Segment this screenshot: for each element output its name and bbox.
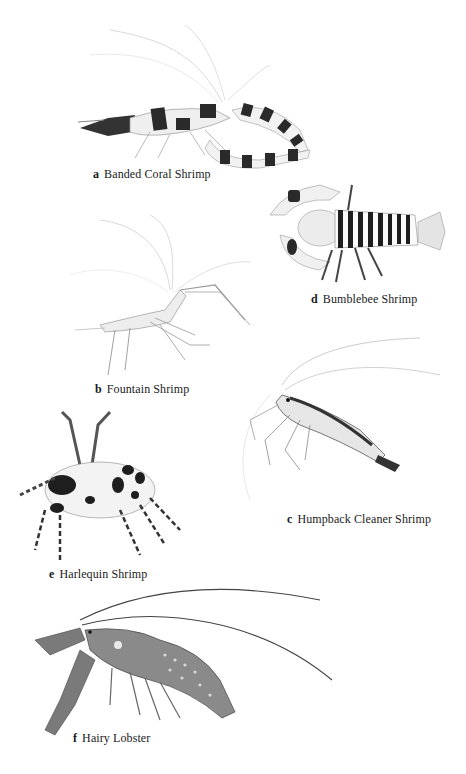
humpback-cleaner-shrimp-illustration (243, 338, 440, 500)
caption-name: Banded Coral Shrimp (104, 167, 211, 181)
caption-letter: b (95, 382, 102, 396)
caption-fountain-shrimp: bFountain Shrimp (95, 382, 189, 397)
harlequin-shrimp-illustration (20, 412, 180, 560)
caption-letter: e (49, 567, 54, 581)
hairy-lobster-illustration (35, 590, 332, 735)
caption-banded-coral-shrimp: aBanded Coral Shrimp (93, 167, 211, 182)
fountain-shrimp-illustration (70, 215, 250, 375)
caption-name: Bumblebee Shrimp (323, 292, 418, 306)
caption-humpback-cleaner-shrimp: cHumpback Cleaner Shrimp (287, 512, 431, 527)
caption-hairy-lobster: fHairy Lobster (73, 731, 150, 746)
illustrations (0, 0, 466, 774)
caption-letter: f (73, 731, 77, 745)
caption-letter: d (311, 292, 318, 306)
caption-bumblebee-shrimp: dBumblebee Shrimp (311, 292, 417, 307)
caption-harlequin-shrimp: eHarlequin Shrimp (49, 567, 147, 582)
caption-name: Harlequin Shrimp (59, 567, 147, 581)
caption-letter: c (287, 512, 292, 526)
caption-name: Humpback Cleaner Shrimp (297, 512, 431, 526)
banded-coral-shrimp-illustration (78, 25, 310, 168)
caption-letter: a (93, 167, 99, 181)
bumblebee-shrimp-illustration (270, 185, 445, 282)
caption-name: Fountain Shrimp (107, 382, 190, 396)
caption-name: Hairy Lobster (82, 731, 150, 745)
